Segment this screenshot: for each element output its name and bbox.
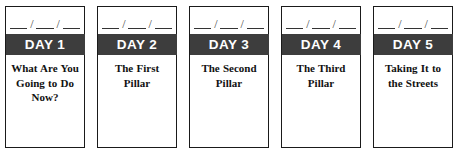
date-blank-segment <box>102 18 119 29</box>
card-title: The Third Pillar <box>287 61 355 90</box>
date-slash-separator: / <box>27 19 36 29</box>
day-banner-label: DAY 4 <box>282 34 361 55</box>
date-blank-line: / / <box>194 18 264 29</box>
date-slash-separator: / <box>146 19 155 29</box>
day-banner-label: DAY 3 <box>190 34 269 55</box>
day-banner-label: DAY 2 <box>98 34 177 55</box>
date-slash-separator: / <box>54 19 63 29</box>
date-blank-segment <box>286 18 303 29</box>
date-blank-line: / / <box>378 18 448 29</box>
date-field-day-3[interactable]: / / <box>190 7 268 34</box>
day-card[interactable]: / / DAY 1 What Are You Going to Do Now? <box>5 6 85 148</box>
date-blank-segment <box>431 18 448 29</box>
date-slash-separator: / <box>422 19 431 29</box>
date-blank-segment <box>36 18 53 29</box>
card-title: Taking It to the Streets <box>379 61 447 90</box>
date-slash-separator: / <box>330 19 339 29</box>
card-body: The Third Pillar <box>282 55 360 147</box>
date-blank-segment <box>339 18 356 29</box>
date-blank-segment <box>220 18 237 29</box>
day-card[interactable]: / / DAY 2 The First Pillar <box>97 6 177 148</box>
date-slash-separator: / <box>303 19 312 29</box>
date-blank-segment <box>404 18 421 29</box>
day-card[interactable]: / / DAY 5 Taking It to the Streets <box>373 6 453 148</box>
date-field-day-5[interactable]: / / <box>374 7 452 34</box>
date-slash-separator: / <box>238 19 247 29</box>
day-banner-label: DAY 5 <box>374 34 453 55</box>
card-title: The Second Pillar <box>195 61 263 90</box>
card-body: The First Pillar <box>98 55 176 147</box>
date-blank-segment <box>378 18 395 29</box>
card-body: Taking It to the Streets <box>374 55 452 147</box>
date-blank-line: / / <box>286 18 356 29</box>
card-title: The First Pillar <box>103 61 171 90</box>
date-field-day-4[interactable]: / / <box>282 7 360 34</box>
card-title: What Are You Going to Do Now? <box>11 61 79 105</box>
date-blank-line: / / <box>102 18 172 29</box>
card-body: What Are You Going to Do Now? <box>6 55 84 147</box>
date-blank-segment <box>194 18 211 29</box>
five-day-planner-strip: / / DAY 1 What Are You Going to Do Now? … <box>0 0 460 155</box>
day-card[interactable]: / / DAY 3 The Second Pillar <box>189 6 269 148</box>
date-slash-separator: / <box>211 19 220 29</box>
date-field-day-2[interactable]: / / <box>98 7 176 34</box>
date-blank-segment <box>247 18 264 29</box>
card-body: The Second Pillar <box>190 55 268 147</box>
date-blank-segment <box>312 18 329 29</box>
date-slash-separator: / <box>119 19 128 29</box>
date-blank-segment <box>63 18 80 29</box>
date-field-day-1[interactable]: / / <box>6 7 84 34</box>
date-blank-segment <box>128 18 145 29</box>
day-banner-label: DAY 1 <box>6 34 85 55</box>
date-blank-segment <box>10 18 27 29</box>
date-blank-segment <box>155 18 172 29</box>
day-card[interactable]: / / DAY 4 The Third Pillar <box>281 6 361 148</box>
date-blank-line: / / <box>10 18 80 29</box>
date-slash-separator: / <box>395 19 404 29</box>
